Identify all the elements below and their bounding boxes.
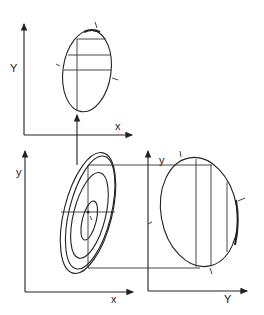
top-tick-left — [56, 64, 60, 66]
top-tick-right — [112, 78, 118, 80]
br-tick-bottom — [210, 268, 212, 274]
br-tick-top — [180, 151, 181, 157]
top-ellipse — [58, 27, 117, 115]
diagram-canvas: Y x y x y — [0, 0, 264, 315]
top-x-axis-label: x — [115, 120, 121, 132]
br-tick-left — [148, 222, 152, 224]
top-panel: Y x — [10, 22, 132, 165]
br-tick-right — [238, 198, 245, 201]
bl-y-axis-label: y — [16, 166, 22, 178]
bottom-left-panel: y x — [16, 147, 212, 305]
top-y-axis-label: Y — [10, 62, 18, 74]
top-tick-top — [95, 22, 97, 28]
contour-middle — [63, 169, 115, 262]
br-x-axis-label: Y — [224, 293, 232, 305]
center-tick — [90, 216, 92, 220]
br-y-axis-label: y — [159, 154, 165, 166]
br-ellipse — [152, 151, 246, 273]
top-ellipse-cap — [84, 30, 100, 32]
bl-x-axis-label: x — [111, 293, 117, 305]
br-ellipse-cap — [235, 200, 238, 245]
contour-inner — [78, 199, 101, 241]
bottom-right-panel: y Y — [148, 151, 247, 305]
